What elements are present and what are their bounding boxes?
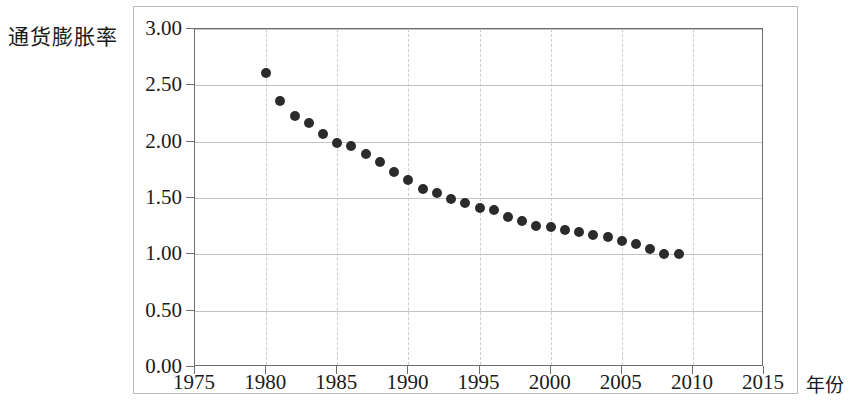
y-tick-mark (186, 141, 194, 142)
x-gridline (693, 29, 694, 365)
data-point (460, 198, 470, 208)
x-gridline (622, 29, 623, 365)
x-axis-title: 年份 (806, 370, 844, 397)
data-point (318, 129, 328, 139)
x-tick-label: 1975 (154, 372, 234, 393)
data-point (446, 194, 456, 204)
data-point (631, 239, 641, 249)
data-point (531, 221, 541, 231)
x-gridline (408, 29, 409, 365)
x-gridline (337, 29, 338, 365)
data-point (290, 111, 300, 121)
data-point (503, 212, 513, 222)
x-tick-label: 1995 (439, 372, 519, 393)
data-point (275, 96, 285, 106)
x-gridline (266, 29, 267, 365)
data-point (546, 222, 556, 232)
data-point (304, 118, 314, 128)
data-point (346, 141, 356, 151)
y-gridline (195, 142, 762, 143)
x-tick-label: 2000 (510, 372, 590, 393)
y-gridline (195, 198, 762, 199)
data-point (645, 244, 655, 254)
data-point (574, 227, 584, 237)
y-gridline (195, 85, 762, 86)
y-tick-label: 1.00 (122, 243, 182, 264)
data-point (475, 203, 485, 213)
data-point (659, 249, 669, 259)
data-point (489, 205, 499, 215)
x-tick-label: 1980 (225, 372, 305, 393)
data-point (603, 232, 613, 242)
y-tick-label: 3.00 (122, 18, 182, 39)
data-point (361, 149, 371, 159)
y-axis-title: 通货膨胀率 (8, 20, 118, 50)
data-point (389, 167, 399, 177)
y-gridline (195, 311, 762, 312)
x-tick-label: 2010 (652, 372, 732, 393)
y-tick-mark (186, 28, 194, 29)
y-tick-label: 0.50 (122, 300, 182, 321)
x-tick-label: 1985 (296, 372, 376, 393)
plot-area (194, 28, 763, 366)
x-tick-label: 2005 (581, 372, 661, 393)
x-gridline (480, 29, 481, 365)
data-point (588, 230, 598, 240)
y-tick-mark (186, 197, 194, 198)
data-point (375, 157, 385, 167)
inflation-rate-scatter-figure: 通货膨胀率 年份 0.000.501.001.502.002.503.00197… (0, 0, 850, 407)
x-tick-label: 2015 (723, 372, 803, 393)
data-point (617, 236, 627, 246)
data-point (674, 249, 684, 259)
x-gridline (551, 29, 552, 365)
data-point (432, 188, 442, 198)
data-point (517, 216, 527, 226)
y-tick-label: 2.50 (122, 74, 182, 95)
y-tick-mark (186, 310, 194, 311)
data-point (332, 138, 342, 148)
data-point (560, 225, 570, 235)
y-gridline (195, 29, 762, 30)
data-point (418, 184, 428, 194)
y-tick-mark (186, 84, 194, 85)
y-tick-mark (186, 253, 194, 254)
data-point (261, 68, 271, 78)
data-point (403, 175, 413, 185)
y-tick-mark (186, 366, 194, 367)
y-tick-label: 2.00 (122, 131, 182, 152)
y-tick-label: 1.50 (122, 187, 182, 208)
x-tick-label: 1990 (367, 372, 447, 393)
